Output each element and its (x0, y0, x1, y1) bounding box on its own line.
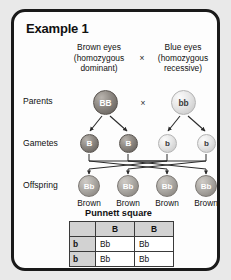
offspring-phenotype-1: Brown (69, 198, 109, 208)
punnett-col-header-2: B (135, 222, 174, 237)
example-card: Example 1 Brown eyes (homozygous dominan… (11, 9, 220, 271)
gamete-circle-3: b (158, 134, 177, 153)
parent-right-phenotype-line3: recessive) (147, 63, 219, 74)
punnett-cell-r1c1: Bb (96, 237, 135, 252)
parent-right-phenotype-line1: Blue eyes (147, 42, 219, 53)
punnett-col-header-1: B (96, 222, 135, 237)
punnett-cell-r2c2: Bb (135, 252, 174, 267)
punnett-cell-r2c1: Bb (96, 252, 135, 267)
punnett-square-title: Punnett square (14, 208, 223, 218)
offspring-phenotype-2: Brown (108, 198, 148, 208)
parent-left-phenotype-line2: (homozygous (62, 53, 136, 64)
offspring-circle-4: Bb (195, 175, 217, 197)
punnett-square-table: B B b Bb Bb b Bb Bb (69, 221, 174, 267)
parent-circle-bb-dominant: BB (93, 90, 118, 115)
table-row: b Bb Bb (70, 237, 174, 252)
row-label-parents: Parents (23, 96, 53, 106)
punnett-row-header-1: b (70, 237, 96, 252)
offspring-phenotype-3: Brown (147, 198, 187, 208)
gamete-circle-1: B (80, 134, 99, 153)
parent-circle-bb-recessive: bb (171, 90, 196, 115)
parent-left-phenotype: Brown eyes (homozygous dominant) (62, 42, 136, 74)
offspring-circle-3: Bb (156, 175, 178, 197)
gamete-circle-2: B (119, 134, 138, 153)
row-label-gametes: Gametes (23, 138, 58, 148)
cross-symbol-header: × (137, 53, 147, 63)
parent-right-phenotype-line2: (homozygous (147, 53, 219, 64)
offspring-phenotype-4: Brown (186, 198, 226, 208)
punnett-corner-cell (70, 222, 96, 237)
table-row: b Bb Bb (70, 252, 174, 267)
row-label-offspring: Offspring (23, 180, 58, 190)
parent-left-phenotype-line3: dominant) (62, 63, 136, 74)
offspring-circle-2: Bb (117, 175, 139, 197)
table-row-header: B B (70, 222, 174, 237)
page-title: Example 1 (26, 21, 89, 36)
cross-symbol-parents: × (137, 98, 149, 108)
parent-right-phenotype: Blue eyes (homozygous recessive) (147, 42, 219, 74)
gamete-circle-4: b (197, 134, 216, 153)
punnett-cell-r1c2: Bb (135, 237, 174, 252)
parent-left-phenotype-line1: Brown eyes (62, 42, 136, 53)
offspring-circle-1: Bb (78, 175, 100, 197)
punnett-row-header-2: b (70, 252, 96, 267)
